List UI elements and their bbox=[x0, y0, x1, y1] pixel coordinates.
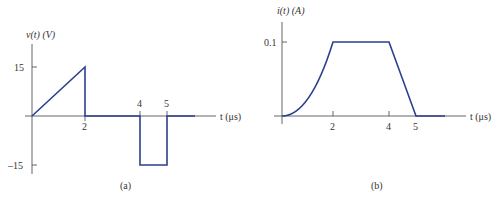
xlabel-b: t (μs) bbox=[470, 111, 491, 123]
panel-label-a: (a) bbox=[120, 180, 131, 192]
ylabel-b: i(t) (A) bbox=[277, 5, 305, 17]
chart-a: v(t) (V) 15 –15 2 4 5 t (μs) (a) bbox=[7, 29, 241, 192]
figure: v(t) (V) 15 –15 2 4 5 t (μs) (a) i(t) (A… bbox=[0, 0, 499, 201]
xtick-label-5-a: 5 bbox=[164, 98, 169, 109]
current-waveform bbox=[282, 42, 445, 116]
ytick-label-neg15: –15 bbox=[7, 160, 23, 171]
xlabel-a: t (μs) bbox=[220, 111, 241, 123]
ytick-label-15: 15 bbox=[14, 62, 24, 73]
xtick-label-5-b: 5 bbox=[413, 121, 418, 132]
xtick-label-4-b: 4 bbox=[386, 121, 391, 132]
xtick-label-4-a: 4 bbox=[137, 98, 142, 109]
chart-b: i(t) (A) 0.1 2 4 5 t (μs) (b) bbox=[264, 5, 491, 192]
ylabel-a: v(t) (V) bbox=[26, 29, 56, 41]
xtick-label-2-a: 2 bbox=[82, 121, 87, 132]
panel-label-b: (b) bbox=[371, 180, 383, 192]
xtick-label-2-b: 2 bbox=[330, 121, 335, 132]
ytick-label-0.1: 0.1 bbox=[264, 37, 277, 48]
